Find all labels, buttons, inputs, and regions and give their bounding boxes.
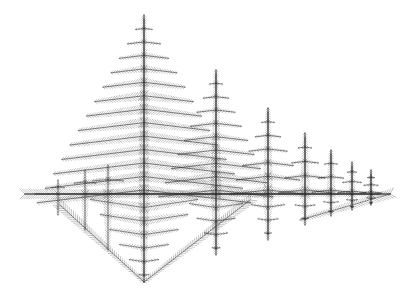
fractal-tree-drawing bbox=[0, 0, 410, 298]
fractal-image bbox=[0, 0, 410, 298]
